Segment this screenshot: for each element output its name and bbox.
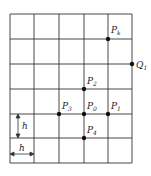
- point-marker: [82, 136, 86, 140]
- point-marker: [82, 87, 86, 91]
- grid-points: PkQ1P2P3P0P1P4: [57, 25, 147, 140]
- dimension-label-horizontal: h: [19, 143, 25, 153]
- point-marker: [57, 112, 61, 116]
- point-label: P2: [86, 76, 97, 87]
- dimension-label-vertical: h: [22, 121, 28, 131]
- arrow-right-icon: [30, 152, 34, 156]
- point-marker: [130, 62, 134, 66]
- point-label: Q1: [136, 60, 147, 71]
- dimension-markers: hh: [10, 114, 34, 156]
- point-label: P3: [61, 101, 72, 112]
- finite-difference-grid-diagram: hh PkQ1P2P3P0P1P4: [0, 0, 151, 176]
- point-label: Pk: [110, 25, 121, 36]
- arrow-down-icon: [16, 134, 20, 138]
- point-label: P1: [110, 101, 121, 112]
- point-label: P0: [86, 101, 97, 112]
- arrow-left-icon: [10, 152, 14, 156]
- point-marker: [106, 37, 110, 41]
- point-marker: [106, 112, 110, 116]
- arrow-up-icon: [16, 114, 20, 118]
- grid-lines: [10, 14, 132, 163]
- point-marker: [82, 112, 86, 116]
- point-label: P4: [86, 125, 97, 136]
